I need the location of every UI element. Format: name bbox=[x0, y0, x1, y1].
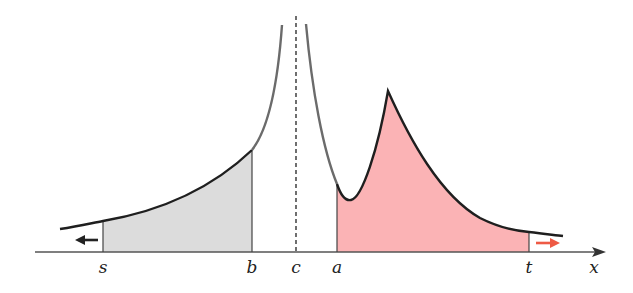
right-curve-upper bbox=[306, 24, 337, 184]
label-s: s bbox=[99, 259, 108, 276]
axis-label-x: x bbox=[589, 259, 599, 276]
left-arrow-icon bbox=[75, 235, 98, 245]
right-arrow-icon bbox=[536, 238, 560, 248]
label-a: a bbox=[332, 259, 342, 276]
label-b: b bbox=[247, 259, 258, 276]
label-c: c bbox=[291, 259, 301, 276]
diagram-canvas bbox=[0, 0, 633, 293]
left-shaded-region bbox=[103, 150, 252, 252]
left-curve-upper bbox=[252, 25, 282, 150]
label-t: t bbox=[526, 259, 533, 276]
